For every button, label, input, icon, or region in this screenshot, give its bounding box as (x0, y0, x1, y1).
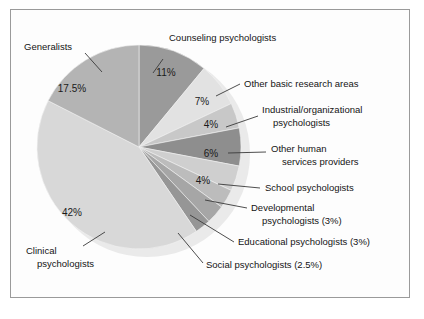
slice-category-label: psychologists (37, 258, 94, 269)
slice-value-label: 17.5% (58, 83, 86, 94)
pie-chart: 11%7%4%6%4%42%17.5% Counseling psycholog… (0, 0, 424, 319)
slice-category-label: Other basic research areas (244, 78, 359, 89)
slice-value-label: 6% (204, 148, 219, 159)
slice-category-label: Social psychologists (2.5%) (206, 259, 322, 270)
slice-category-label: Developmental (251, 202, 314, 213)
slice-category-label: Generalists (24, 41, 72, 52)
slice-category-label: School psychologists (265, 182, 354, 193)
slice-category-label: Educational psychologists (3%) (238, 236, 370, 247)
slice-value-label: 42% (62, 207, 82, 218)
slice-value-label: 4% (204, 119, 219, 130)
slice-category-label: services providers (282, 156, 359, 167)
pie-slices (37, 45, 241, 249)
slice-value-label: 7% (195, 96, 210, 107)
slice-category-label: Industrial/organizational (262, 104, 362, 115)
slice-category-label: Clinical (26, 245, 57, 256)
slice-value-label: 11% (156, 67, 175, 78)
slice-value-label: 4% (196, 175, 211, 186)
slice-category-label: psychologists (273, 117, 330, 128)
screenshot-root: 11%7%4%6%4%42%17.5% Counseling psycholog… (0, 0, 424, 319)
slice-category-label: psychologists (3%) (262, 215, 342, 226)
slice-category-label: Counseling psychologists (169, 32, 276, 43)
slice-category-label: Other human (271, 143, 326, 154)
